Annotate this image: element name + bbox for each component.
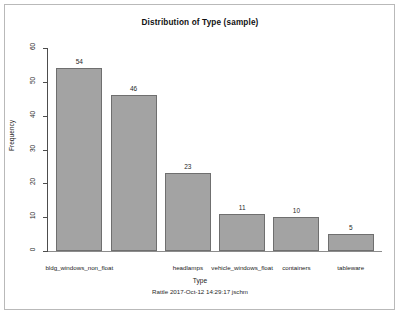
y-tick-label-wrap: 10 — [25, 212, 39, 222]
y-tick-label-wrap: 0 — [25, 246, 39, 256]
chart-title: Distribution of Type (sample) — [0, 18, 400, 27]
bar-chart-figure: Distribution of Type (sample) Frequency … — [0, 0, 400, 316]
plot-area: 54462311105 — [48, 40, 382, 251]
x-axis-title: Type — [0, 277, 400, 284]
y-tick-label: 50 — [29, 73, 36, 87]
x-tick-label: bldg_windows_non_float — [29, 264, 129, 271]
bar — [328, 234, 374, 251]
bar-value-label: 10 — [273, 207, 319, 214]
y-tick-label-wrap: 20 — [25, 178, 39, 188]
bar — [56, 68, 102, 251]
y-axis-title: Frequency — [8, 106, 15, 166]
y-tick-label: 40 — [29, 107, 36, 121]
y-tick-label-wrap: 30 — [25, 145, 39, 155]
bar-value-label: 11 — [219, 204, 265, 211]
bar — [165, 173, 211, 251]
bar-value-label: 46 — [111, 85, 157, 92]
y-tick-label-wrap: 40 — [25, 111, 39, 121]
bar-value-label: 5 — [328, 224, 374, 231]
bar — [111, 95, 157, 251]
y-tick-label: 60 — [29, 40, 36, 54]
chart-caption: Rattle 2017-Oct-12 14:29:17 jschm — [0, 288, 400, 295]
y-tick-label: 20 — [29, 175, 36, 189]
y-tick-label-wrap: 50 — [25, 77, 39, 87]
bar-value-label: 23 — [165, 163, 211, 170]
y-tick-label: 0 — [29, 243, 36, 257]
x-tick-label: tableware — [301, 264, 400, 271]
bar — [273, 217, 319, 251]
y-tick-mark — [43, 251, 48, 252]
bar-value-label: 54 — [56, 58, 102, 65]
y-tick-label: 10 — [29, 209, 36, 223]
y-tick-label: 30 — [29, 141, 36, 155]
bar — [219, 214, 265, 251]
y-tick-label-wrap: 60 — [25, 43, 39, 53]
x-axis-baseline — [48, 251, 382, 252]
